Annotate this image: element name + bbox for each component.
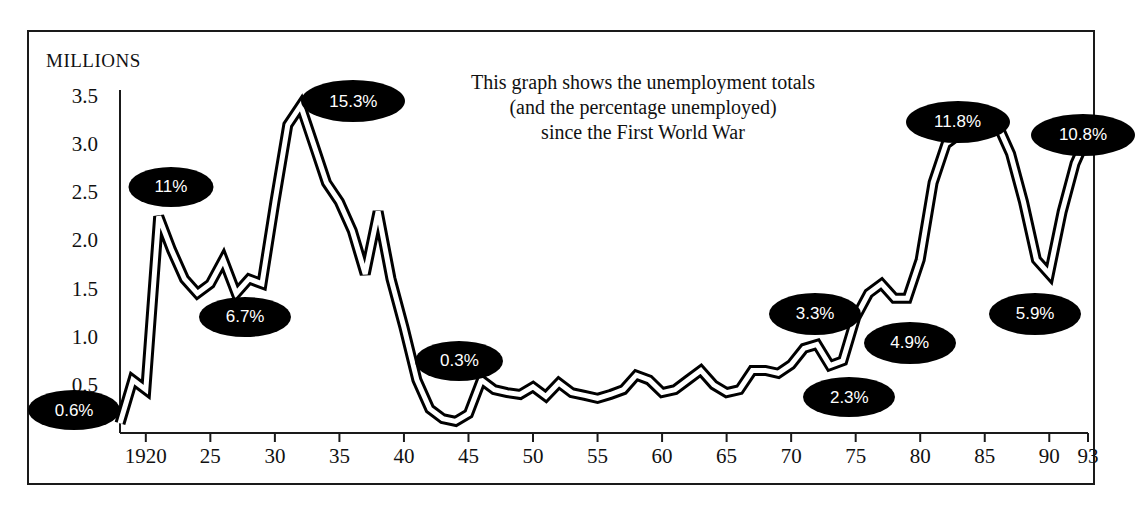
y-tick-label: 1.0 [40,324,98,349]
x-tick-label: 70 [761,444,821,469]
y-tick-label: 2.0 [40,228,98,253]
x-tick-label: 80 [890,444,950,469]
x-tick-label: 93 [1058,444,1118,469]
x-tick-label: 55 [568,444,628,469]
percentage-callout: 0.6% [28,390,120,430]
percentage-callout: 11.8% [906,101,1010,143]
x-tick-label: 85 [955,444,1015,469]
y-tick-label: 2.5 [40,180,98,205]
unemployment-line-series [120,106,1088,424]
percentage-callout: 15.3% [301,80,405,122]
x-tick-label: 40 [374,444,434,469]
y-tick-label: 1.5 [40,276,98,301]
x-tick-label: 75 [826,444,886,469]
x-tick-label: 1920 [116,444,176,469]
percentage-callout: 10.8% [1031,114,1135,156]
x-tick-label: 25 [180,444,240,469]
y-tick-label: 3.0 [40,132,98,157]
x-tick-label: 30 [245,444,305,469]
percentage-callout: 0.3% [415,341,503,381]
percentage-callout: 4.9% [864,322,956,364]
chart-page: MILLIONS This graph shows the unemployme… [0,0,1140,519]
percentage-callout: 3.3% [769,293,861,335]
x-tick-label: 35 [309,444,369,469]
x-tick-label: 60 [632,444,692,469]
percentage-callout: 6.7% [199,297,291,337]
percentage-callout: 2.3% [803,377,895,417]
y-tick-label: 3.5 [40,84,98,109]
percentage-callout: 5.9% [989,293,1081,335]
x-tick-label: 65 [697,444,757,469]
percentage-callout: 11% [129,167,214,207]
x-tick-label: 50 [503,444,563,469]
chart-plot-svg [0,0,1140,519]
x-tick-label: 45 [438,444,498,469]
